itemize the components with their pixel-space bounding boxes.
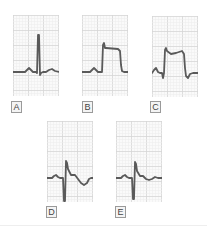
ecg-trace-b (82, 15, 128, 96)
panel-label-e: E (115, 206, 126, 218)
panel-label-b: B (82, 101, 93, 113)
ecg-panel-e (116, 121, 162, 202)
bottom-divider (0, 225, 207, 226)
ecg-panel-c (152, 16, 198, 97)
ecg-trace-c (152, 16, 198, 97)
ecg-panel-a (13, 15, 59, 96)
panel-label-a: A (11, 101, 22, 113)
ecg-trace-d (47, 121, 93, 202)
panel-label-c: C (150, 101, 161, 113)
ecg-trace-e (116, 121, 162, 202)
ecg-trace-a (13, 15, 59, 96)
panel-label-d: D (46, 206, 57, 218)
ecg-panel-d (47, 121, 93, 202)
ecg-panel-b (82, 15, 128, 96)
